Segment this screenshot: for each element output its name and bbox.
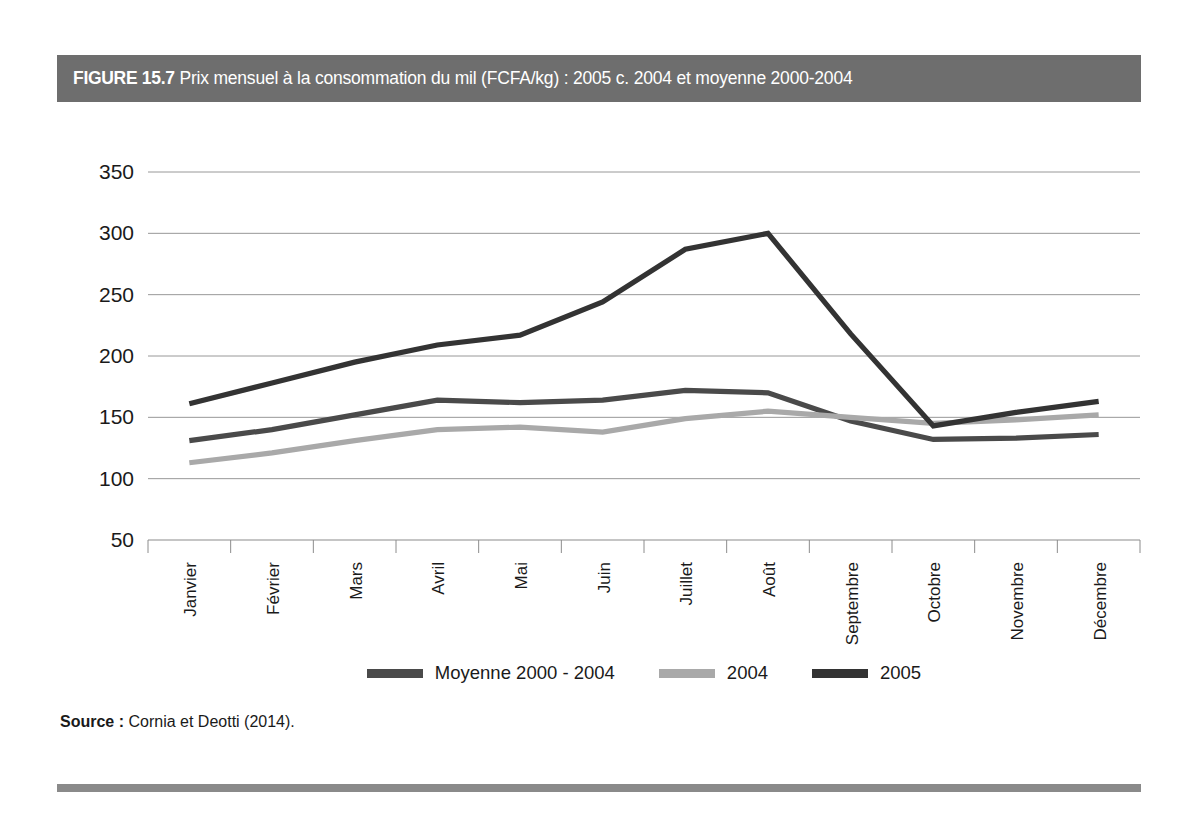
x-tick-label: Juillet <box>677 562 696 606</box>
line-chart-svg: 50100150200250300350 JanvierFévrierMarsA… <box>0 0 1199 825</box>
source-note: Source : Cornia et Deotti (2014). <box>60 713 295 731</box>
x-axis-tick-labels: JanvierFévrierMarsAvrilMaiJuinJuilletAoû… <box>181 562 1109 646</box>
figure-bottom-rule <box>57 784 1141 792</box>
x-tick-label: Décembre <box>1091 562 1110 640</box>
y-tick-label: 150 <box>99 405 134 428</box>
y-tick-label: 100 <box>99 467 134 490</box>
x-tick-label: Mai <box>512 562 531 589</box>
legend-item: 2005 <box>812 662 921 684</box>
legend-swatch-icon <box>367 669 423 678</box>
y-tick-label: 250 <box>99 283 134 306</box>
x-tick-label: Novembre <box>1008 562 1027 640</box>
y-tick-label: 200 <box>99 344 134 367</box>
x-tick-label: Janvier <box>181 562 200 617</box>
legend-label: 2004 <box>727 662 768 684</box>
legend-label: Moyenne 2000 - 2004 <box>435 662 615 684</box>
x-axis-tick-marks <box>148 540 1140 553</box>
y-tick-label: 50 <box>111 528 134 551</box>
legend-swatch-icon <box>659 669 715 678</box>
chart-plot-area: 50100150200250300350 JanvierFévrierMarsA… <box>0 0 1199 825</box>
data-series-group <box>189 233 1098 462</box>
x-tick-label: Mars <box>347 562 366 600</box>
legend-label: 2005 <box>880 662 921 684</box>
legend-item: 2004 <box>659 662 768 684</box>
figure-container: FIGURE 15.7 Prix mensuel à la consommati… <box>0 0 1199 825</box>
y-axis-tick-labels: 50100150200250300350 <box>99 160 134 551</box>
legend-item: Moyenne 2000 - 2004 <box>367 662 615 684</box>
chart-legend: Moyenne 2000 - 200420042005 <box>148 662 1140 684</box>
x-tick-label: Septembre <box>843 562 862 645</box>
x-tick-label: Avril <box>429 562 448 595</box>
x-tick-label: Février <box>264 562 283 615</box>
series-line-moyenne-2000-2004 <box>189 390 1098 440</box>
y-tick-label: 350 <box>99 160 134 183</box>
x-tick-label: Août <box>760 562 779 597</box>
legend-swatch-icon <box>812 669 868 678</box>
gridlines-group <box>148 172 1140 540</box>
x-tick-label: Octobre <box>925 562 944 622</box>
source-text: Cornia et Deotti (2014). <box>128 713 294 730</box>
x-tick-label: Juin <box>595 562 614 593</box>
source-label: Source : <box>60 713 124 730</box>
y-tick-label: 300 <box>99 221 134 244</box>
